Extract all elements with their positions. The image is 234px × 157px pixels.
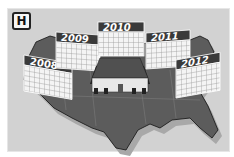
- calendar-year-label: 2010: [103, 22, 131, 33]
- house-door: [118, 84, 123, 92]
- calendar-2010: 2010: [98, 22, 144, 57]
- calendar-2009: 2009: [56, 32, 100, 72]
- us-map-illustration: 2008 2009 2010 2011 2012: [0, 0, 234, 157]
- house: [90, 58, 150, 94]
- calendar-2012: 2012: [176, 52, 220, 98]
- h-badge: H: [12, 12, 31, 30]
- badge-letter: H: [16, 14, 26, 28]
